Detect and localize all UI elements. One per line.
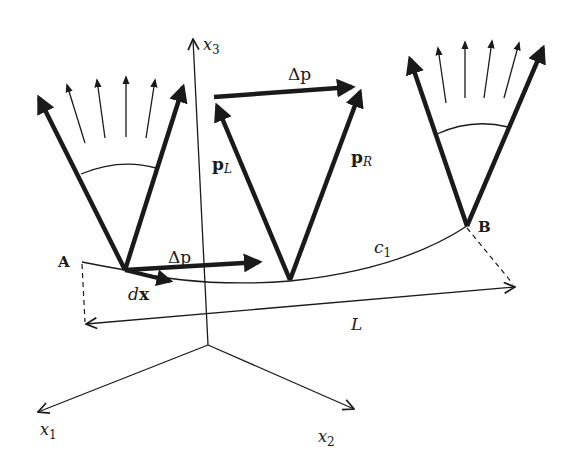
delta-p-bottom-arrow — [125, 262, 259, 270]
pR-arrow — [290, 92, 360, 280]
delta-p-top-label: Δp — [288, 64, 311, 84]
right-fan-thin-arrow-3 — [484, 41, 492, 98]
pR-label: pR — [351, 147, 372, 169]
left-fan-thin-arrow-2 — [97, 80, 105, 138]
right-fan-thin-arrow-1 — [438, 48, 446, 103]
x1-axis — [38, 345, 208, 412]
x2-label: x2 — [318, 427, 335, 449]
pL-arrow — [217, 106, 290, 280]
left-fan — [39, 77, 259, 281]
length-arrow — [86, 287, 515, 324]
diagram-canvas: x3 x1 x2 A B Δp Δp pL pR c1 dx L — [0, 0, 576, 475]
right-fan — [410, 41, 543, 226]
dx-label: dx — [128, 284, 150, 304]
left-fan-thin-arrow-1 — [67, 85, 85, 143]
coordinate-axes — [38, 39, 354, 412]
point-b-label: B — [478, 218, 491, 236]
pL-label: pL — [212, 154, 232, 176]
x3-label: x3 — [203, 35, 220, 57]
delta-p-top-arrow — [214, 87, 352, 97]
point-a-label: A — [57, 253, 70, 271]
right-fan-arrow-right — [467, 48, 543, 226]
right-fan-thin-arrow-4 — [504, 43, 519, 98]
left-fan-arc — [81, 164, 156, 174]
left-fan-thin-arrow-4 — [146, 80, 155, 138]
dx-arrow — [125, 270, 170, 281]
momentum-triangle — [214, 87, 360, 280]
left-fan-arrow-right — [125, 87, 183, 270]
curve-c1-label: c1 — [374, 237, 391, 260]
x1-label: x1 — [40, 420, 57, 442]
delta-p-bottom-label: Δp — [168, 247, 191, 267]
left-fan-arrow-left — [39, 98, 125, 270]
dashed-projection-b — [467, 228, 513, 284]
length-label: L — [350, 314, 362, 334]
x3-axis — [193, 39, 208, 345]
x2-axis — [208, 345, 354, 409]
right-fan-arrow-left — [410, 59, 467, 226]
right-fan-arc — [437, 124, 508, 134]
dashed-projection-a — [82, 264, 85, 322]
diagram-svg: x3 x1 x2 A B Δp Δp pL pR c1 dx L — [0, 0, 576, 475]
